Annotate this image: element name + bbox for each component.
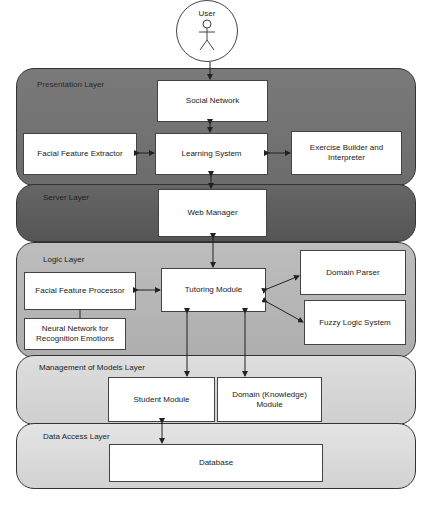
connectors (0, 0, 434, 508)
